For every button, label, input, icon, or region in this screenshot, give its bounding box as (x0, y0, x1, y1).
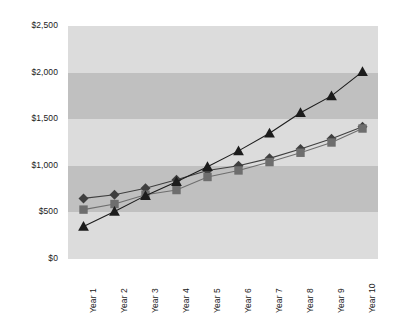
x-axis-tick-label: Year 2 (119, 288, 129, 313)
x-axis-tick-label: Year 6 (243, 288, 253, 313)
x-axis-tick-label: Year 5 (212, 288, 222, 313)
y-axis-tick-label: $1,000 (8, 160, 58, 170)
x-axis-tick-label: Year 10 (367, 283, 377, 313)
plot-area (68, 26, 378, 259)
triangle-marker (295, 107, 306, 117)
triangle-marker (357, 66, 368, 76)
triangle-marker (326, 91, 337, 101)
x-axis-tick-label: Year 7 (274, 288, 284, 313)
series-diamond (79, 122, 368, 204)
series-line (84, 127, 363, 199)
square-marker (296, 149, 304, 157)
triangle-marker (202, 161, 213, 171)
square-marker (172, 186, 180, 194)
line-chart: $0$500$1,000$1,500$2,000$2,500 Year 1Yea… (0, 0, 400, 322)
series-line (84, 129, 363, 210)
square-marker (79, 205, 87, 213)
x-axis-tick-label: Year 8 (305, 288, 315, 313)
x-axis-tick-label: Year 1 (88, 288, 98, 313)
x-axis-tick-label: Year 9 (336, 288, 346, 313)
x-axis-tick-label: Year 4 (181, 288, 191, 313)
series-line (84, 72, 363, 227)
triangle-marker (78, 221, 89, 231)
square-marker (203, 173, 211, 181)
y-axis-tick-label: $2,000 (8, 67, 58, 77)
square-marker (234, 166, 242, 174)
y-axis-tick-label: $0 (8, 253, 58, 263)
series-triangle (78, 66, 368, 230)
diamond-marker (110, 190, 120, 200)
square-marker (265, 158, 273, 166)
square-marker (358, 124, 366, 132)
triangle-marker (233, 145, 244, 155)
series-layer (68, 26, 378, 259)
square-marker (327, 138, 335, 146)
y-axis-tick-label: $1,500 (8, 113, 58, 123)
diamond-marker (79, 193, 89, 203)
y-axis-tick-label: $500 (8, 206, 58, 216)
series-square (79, 124, 366, 213)
y-axis-tick-label: $2,500 (8, 20, 58, 30)
x-axis-tick-label: Year 3 (150, 288, 160, 313)
triangle-marker (264, 128, 275, 138)
